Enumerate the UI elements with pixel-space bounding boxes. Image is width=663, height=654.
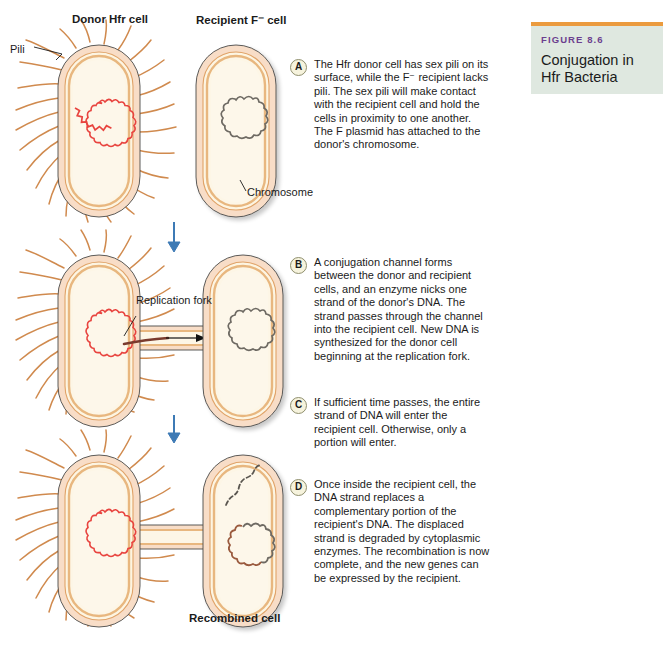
step-marker-a: A (290, 59, 307, 76)
recombined-cell (203, 455, 283, 627)
label-recombined-cell: Recombined cell (189, 612, 280, 624)
step-marker-d: D (290, 479, 307, 496)
step-marker-c: C (290, 397, 307, 414)
heading-donor-cell: Donor Hfr cell (72, 13, 148, 25)
figure-number: FIGURE 8.6 (541, 34, 653, 45)
conjugation-diagram (0, 0, 300, 654)
step-text-c: If sufficient time passes, the entire st… (314, 396, 490, 450)
step-text-d: Once inside the recipient cell, the DNA … (314, 478, 490, 585)
caption-step-a: A The Hfr donor cell has sex pili on its… (290, 58, 490, 152)
flow-arrow-2 (168, 415, 180, 443)
heading-recipient-cell: Recipient F⁻ cell (196, 13, 286, 27)
caption-step-c: C If sufficient time passes, the entire … (290, 396, 490, 450)
step-marker-b: B (290, 257, 307, 274)
step-text-a: The Hfr donor cell has sex pili on its s… (314, 58, 490, 152)
conjugation-channel-2 (130, 525, 210, 549)
donor-cell-3 (58, 455, 140, 627)
flow-arrow-1 (168, 222, 180, 252)
donor-cell-2 (58, 255, 140, 427)
label-replication-fork: Replication fork (136, 294, 214, 307)
label-chromosome: Chromosome (247, 186, 313, 198)
stage-1-group (16, 20, 176, 222)
donor-cell-1 (58, 45, 140, 217)
label-pili: Pili (10, 43, 25, 55)
figure-title: Conjugation in Hfr Bacteria (541, 52, 653, 86)
pili-leader-line (34, 47, 62, 60)
figure-title-box: FIGURE 8.6 Conjugation in Hfr Bacteria (531, 22, 663, 94)
caption-step-d: D Once inside the recipient cell, the DN… (290, 478, 490, 585)
recipient-cell-2 (203, 255, 283, 427)
stage-3-group (16, 430, 283, 627)
step-text-b: A conjugation channel forms between the … (314, 256, 490, 363)
stage-2-group (16, 230, 283, 427)
caption-step-b: B A conjugation channel forms between th… (290, 256, 490, 363)
